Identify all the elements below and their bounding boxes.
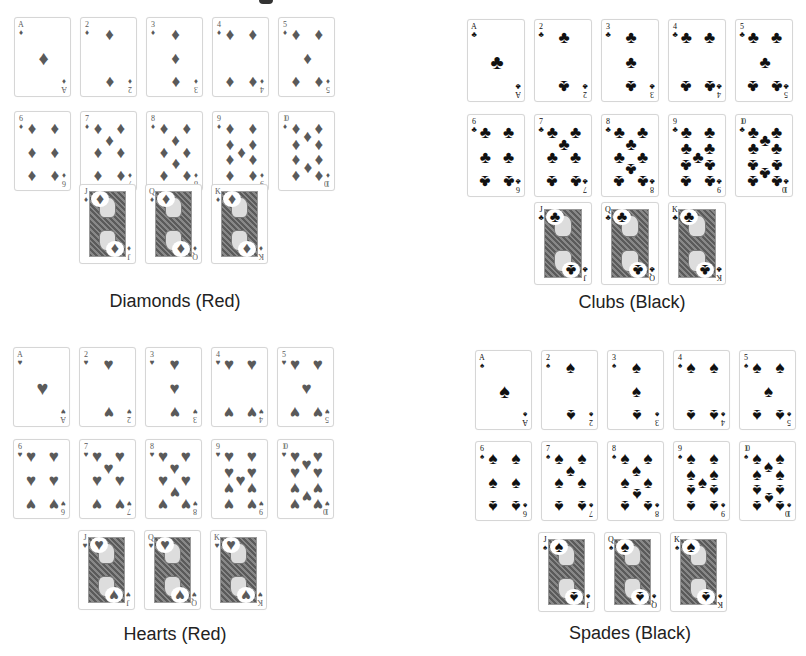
clubs-icon: ♣	[543, 148, 561, 165]
hearts-icon: ♥	[220, 404, 238, 421]
clubs-icon: ♣	[715, 265, 723, 273]
card-4-of-hearts: 4♥4♥♥♥♥♥	[211, 347, 268, 427]
card-a-of-hearts: A♥A♥♥	[13, 347, 70, 427]
hearts-icon: ♥	[256, 590, 264, 598]
rank-label: 2	[587, 418, 595, 426]
card-6-of-spades: 6♠6♠♠♠♠♠♠♠	[475, 441, 532, 521]
diamonds-icon: ♦	[244, 26, 262, 43]
clubs-icon: ♣	[613, 209, 631, 225]
hearts-icon: ♥	[298, 380, 316, 397]
clubs-icon: ♣	[567, 148, 585, 165]
spades-icon: ♠	[628, 407, 646, 424]
diamonds-icon: ♦	[191, 244, 199, 252]
card-a-of-clubs: A♣A♣♣	[467, 19, 525, 102]
card-index-top: 3♦	[149, 21, 157, 37]
spades-icon: ♠	[544, 362, 552, 370]
clubs-icon: ♣	[488, 53, 506, 70]
spades-icon: ♠	[653, 410, 661, 418]
hearts-icon: ♥	[243, 404, 261, 421]
hearts-icon: ♥	[154, 496, 172, 513]
spades-icon: ♠	[616, 539, 634, 555]
card-index-top: 2♠	[544, 354, 552, 370]
card-index-top: 2♥	[82, 351, 90, 367]
diamonds-icon: ♦	[287, 74, 305, 91]
rank-label: Q	[191, 252, 199, 260]
card-index-bottom: A♣	[514, 82, 522, 98]
hearts-icon: ♥	[45, 472, 63, 489]
spades-icon: ♠	[628, 383, 646, 400]
clubs-icon: ♣	[622, 78, 640, 95]
clubs-icon: ♣	[555, 28, 573, 45]
rank-label: 2	[125, 415, 133, 423]
diamonds-icon: ♦	[287, 26, 305, 43]
card-index-top: 2♣	[537, 23, 545, 39]
hearts-icon: ♥	[100, 356, 118, 373]
spades-icon: ♠	[484, 498, 502, 515]
clubs-icon: ♣	[500, 148, 518, 165]
clubs-icon: ♣	[555, 78, 573, 95]
diamonds-icon: ♦	[221, 168, 239, 185]
card-index-top: A♣	[470, 23, 478, 39]
rank-label: A	[514, 90, 522, 98]
card-index-bottom: 3♦	[192, 77, 200, 93]
rank-label: 2	[581, 90, 589, 98]
card-a-of-diamonds: A♦A♦♦	[14, 17, 71, 97]
card-index-top: 3♥	[148, 351, 156, 367]
clubs-icon: ♣	[610, 173, 628, 190]
spades-icon: ♠	[760, 383, 778, 400]
spades-icon: ♠	[705, 359, 723, 376]
clubs-icon: ♣	[677, 78, 695, 95]
spades-icon: ♠	[610, 362, 618, 370]
card-j-of-hearts: J♥J♥♥♥	[78, 530, 135, 610]
spades-icon: ♠	[562, 359, 580, 376]
spades-icon: ♠	[682, 539, 700, 555]
card-index-top: A♥	[16, 351, 24, 367]
card-index-bottom: K♠	[716, 592, 724, 608]
card-k-of-spades: K♠K♠♠♠	[670, 532, 727, 612]
card-index-top: 2♦	[83, 21, 91, 37]
clubs-icon: ♣	[562, 262, 580, 278]
diamonds-icon: ♦	[178, 168, 196, 185]
diamonds-icon: ♦	[157, 191, 175, 207]
card-7-of-diamonds: 7♦7♦♦♦♦♦♦♦♦	[80, 111, 137, 191]
rank-label: K	[716, 600, 724, 608]
diamonds-icon: ♦	[257, 244, 265, 252]
hearts-icon: ♥	[88, 472, 106, 489]
rank-label: Q	[190, 598, 198, 606]
card-5-of-spades: 5♠5♠♠♠♠♠♠	[739, 350, 796, 430]
hearts-icon: ♥	[45, 496, 63, 513]
hearts-icon: ♥	[166, 356, 184, 373]
hearts-icon: ♥	[45, 448, 63, 465]
rank-label: K	[257, 252, 265, 260]
rank-label: 2	[126, 85, 134, 93]
card-k-of-clubs: K♣K♣♣♣	[668, 202, 726, 285]
clubs-icon: ♣	[500, 123, 518, 140]
diamonds-icon: ♦	[244, 168, 262, 185]
card-index-bottom: Q♣	[648, 265, 656, 281]
card-3-of-spades: 3♠3♠♠♠♠	[607, 350, 664, 430]
clubs-icon: ♣	[622, 28, 640, 45]
card-9-of-clubs: 9♣9♣♣♣♣♣♣♣♣♣♣	[668, 114, 726, 197]
hearts-icon: ♥	[111, 472, 129, 489]
clubs-icon: ♣	[744, 78, 762, 95]
hearts-icon: ♥	[22, 496, 40, 513]
rank-label: A	[60, 85, 68, 93]
diamonds-icon: ♦	[46, 168, 64, 185]
spades-icon: ♠	[616, 498, 634, 515]
spades-icon: ♠	[521, 410, 529, 418]
hearts-icon: ♥	[191, 407, 199, 415]
hearts-icon: ♥	[286, 404, 304, 421]
diamonds-icon: ♦	[17, 29, 25, 37]
clubs-icon: ♣	[680, 209, 698, 225]
cropped-title-fragment	[259, 0, 273, 4]
spades-icon: ♠	[682, 359, 700, 376]
spades-icon: ♠	[716, 592, 724, 600]
card-index-bottom: 2♠	[587, 410, 595, 426]
card-index-top: 3♣	[604, 23, 612, 39]
spades-icon: ♠	[682, 498, 700, 515]
card-10-of-hearts: 10♥10♥♥♥♥♥♥♥♥♥♥♥	[277, 439, 334, 519]
card-index-bottom: 3♣	[648, 82, 656, 98]
card-index-bottom: 2♥	[125, 407, 133, 423]
diamonds-icon: ♦	[101, 26, 119, 43]
rank-label: J	[581, 273, 589, 281]
